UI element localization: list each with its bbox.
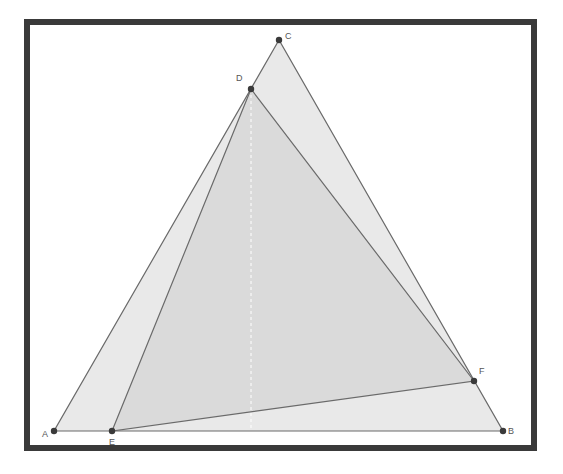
point-a-dot <box>51 428 57 434</box>
point-c-dot <box>276 37 282 43</box>
point-d-dot <box>248 86 254 92</box>
point-b-label: B <box>508 426 514 436</box>
point-b-dot <box>500 428 506 434</box>
point-e-label: E <box>109 437 115 447</box>
geometry-diagram: ABCDEF <box>0 0 563 474</box>
point-e-dot <box>109 428 115 434</box>
point-f-label: F <box>479 366 485 376</box>
point-d-label: D <box>236 73 243 83</box>
point-f-dot <box>471 378 477 384</box>
point-c-label: C <box>285 31 292 41</box>
point-a-label: A <box>42 429 48 439</box>
